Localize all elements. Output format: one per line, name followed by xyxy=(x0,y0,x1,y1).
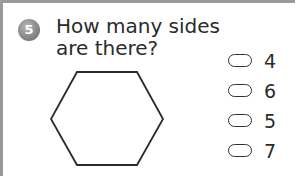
answer-bubble[interactable] xyxy=(228,54,252,67)
answer-bubble[interactable] xyxy=(228,144,252,157)
option-label: 4 xyxy=(264,50,276,72)
option-4[interactable]: 4 xyxy=(228,49,276,72)
option-7[interactable]: 7 xyxy=(228,139,276,162)
option-5[interactable]: 5 xyxy=(228,109,276,132)
option-label: 6 xyxy=(264,80,276,102)
option-6[interactable]: 6 xyxy=(228,79,276,102)
option-label: 7 xyxy=(264,140,276,162)
answer-options: 4 6 5 7 xyxy=(228,49,276,169)
option-label: 5 xyxy=(264,110,276,132)
answer-bubble[interactable] xyxy=(228,84,252,97)
answer-bubble[interactable] xyxy=(228,114,252,127)
